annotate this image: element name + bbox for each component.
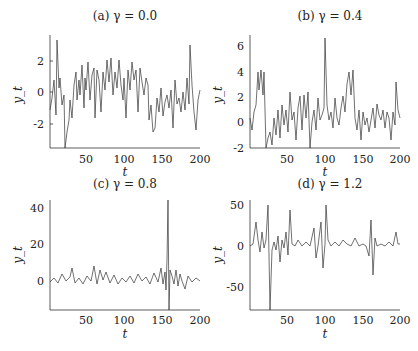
svg-text:150: 150 bbox=[353, 153, 374, 166]
panel-title: (a) γ = 0.0 bbox=[93, 9, 157, 23]
panel-title: (d) γ = 1.2 bbox=[298, 177, 363, 191]
svg-text:100: 100 bbox=[315, 314, 336, 327]
svg-text:50: 50 bbox=[79, 153, 93, 166]
panel-d: (d) γ = 1.2 50 0 -50 50 100 150 200 t y_… bbox=[211, 177, 411, 341]
svg-text:6: 6 bbox=[237, 40, 244, 53]
panel-b: (b) γ = 0.4 6 4 2 0 -2 50 100 150 200 t … bbox=[211, 9, 411, 179]
panel-title: (c) γ = 0.8 bbox=[93, 177, 157, 191]
svg-text:150: 150 bbox=[152, 153, 173, 166]
svg-text:150: 150 bbox=[152, 314, 173, 327]
y-axis-label: y_t bbox=[211, 246, 225, 265]
series-line bbox=[50, 40, 200, 148]
svg-text:40: 40 bbox=[30, 202, 44, 215]
y-axis-label: y_t bbox=[11, 86, 25, 105]
series-line bbox=[250, 205, 400, 310]
svg-text:50: 50 bbox=[280, 153, 294, 166]
svg-text:200: 200 bbox=[390, 314, 411, 327]
figure: (a) γ = 0.0 2 0 -2 50 100 150 200 t y_t … bbox=[0, 0, 418, 351]
svg-text:-2: -2 bbox=[233, 142, 244, 155]
x-axis-label: t bbox=[123, 327, 128, 341]
chart-canvas: (a) γ = 0.0 2 0 -2 50 100 150 200 t y_t … bbox=[0, 0, 418, 351]
series-line bbox=[250, 38, 400, 148]
svg-text:4: 4 bbox=[237, 66, 244, 79]
svg-text:200: 200 bbox=[190, 314, 211, 327]
panel-a: (a) γ = 0.0 2 0 -2 50 100 150 200 t y_t bbox=[11, 9, 211, 179]
svg-text:150: 150 bbox=[353, 314, 374, 327]
svg-text:0: 0 bbox=[37, 275, 44, 288]
svg-text:0: 0 bbox=[37, 86, 44, 99]
panel-c: (c) γ = 0.8 40 20 0 50 100 150 200 t y_t bbox=[11, 177, 211, 341]
svg-text:2: 2 bbox=[237, 91, 244, 104]
svg-text:-50: -50 bbox=[226, 281, 244, 294]
svg-text:200: 200 bbox=[390, 153, 411, 166]
series-line bbox=[50, 200, 200, 310]
svg-text:100: 100 bbox=[114, 314, 135, 327]
x-axis-label: t bbox=[323, 327, 328, 341]
svg-text:0: 0 bbox=[237, 116, 244, 129]
svg-text:0: 0 bbox=[237, 240, 244, 253]
svg-text:20: 20 bbox=[30, 238, 44, 251]
panel-title: (b) γ = 0.4 bbox=[298, 9, 363, 23]
svg-text:50: 50 bbox=[79, 314, 93, 327]
svg-text:-2: -2 bbox=[33, 118, 44, 131]
y-axis-label: y_t bbox=[11, 246, 25, 265]
svg-text:2: 2 bbox=[37, 55, 44, 68]
y-axis-label: y_t bbox=[211, 86, 225, 105]
svg-text:200: 200 bbox=[190, 153, 211, 166]
svg-text:50: 50 bbox=[280, 314, 294, 327]
svg-text:50: 50 bbox=[230, 199, 244, 212]
